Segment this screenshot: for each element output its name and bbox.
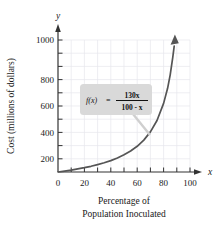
formula-fx-label: f(x) xyxy=(86,96,97,105)
x-tick-label-20: 20 xyxy=(80,178,90,188)
formula-equals: = xyxy=(106,96,111,105)
formula-annotation: f(x) = 130x 100 - x xyxy=(80,84,152,115)
x-tick-label-80: 80 xyxy=(159,178,169,188)
x-axis-symbol: x xyxy=(207,167,213,177)
x-tick-label-0: 0 xyxy=(56,178,61,188)
y-tick-label-1000: 1000 xyxy=(36,35,55,45)
x-axis-title-line1: Percentage of xyxy=(98,196,151,206)
formula-denominator: 100 - x xyxy=(121,103,142,112)
y-axis-symbol: y xyxy=(55,11,61,21)
x-tick-label-60: 60 xyxy=(133,178,143,188)
y-axis-title: Cost (millions of dollars) xyxy=(6,58,17,154)
formula-numerator: 130x xyxy=(125,91,140,100)
x-tick-label-40: 40 xyxy=(106,178,116,188)
y-tick-label-400: 400 xyxy=(41,128,55,138)
x-axis-title-line2: Population Inoculated xyxy=(82,209,166,219)
function-graph: 200 400 600 800 1000 0 20 40 60 80 100 y… xyxy=(0,0,221,230)
y-tick-label-600: 600 xyxy=(41,101,55,111)
y-tick-label-200: 200 xyxy=(41,154,55,164)
x-tick-label-100: 100 xyxy=(183,178,197,188)
y-tick-label-800: 800 xyxy=(41,75,55,85)
figure-container: 200 400 600 800 1000 0 20 40 60 80 100 y… xyxy=(0,0,221,230)
